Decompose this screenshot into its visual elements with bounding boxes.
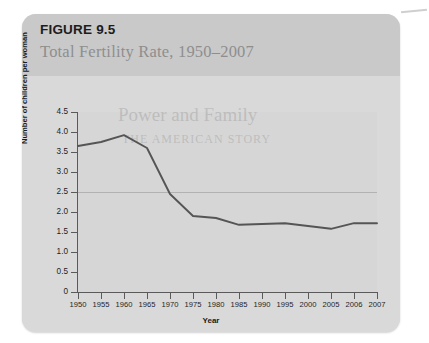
figure-header-band: FIGURE 9.5 Total Fertility Rate, 1950–20… — [22, 14, 400, 76]
x-axis-title: Year — [22, 316, 400, 325]
figure-number: FIGURE 9.5 — [40, 22, 116, 37]
chart-body: Power and Family THE AMERICAN STORY 4.54… — [22, 76, 400, 332]
y-axis-title: Number of children per woman — [22, 32, 29, 144]
data-series-line — [22, 76, 400, 332]
page-edge-mark — [401, 9, 427, 14]
figure-subtitle: Total Fertility Rate, 1950–2007 — [40, 42, 254, 62]
figure-card: FIGURE 9.5 Total Fertility Rate, 1950–20… — [22, 14, 400, 332]
